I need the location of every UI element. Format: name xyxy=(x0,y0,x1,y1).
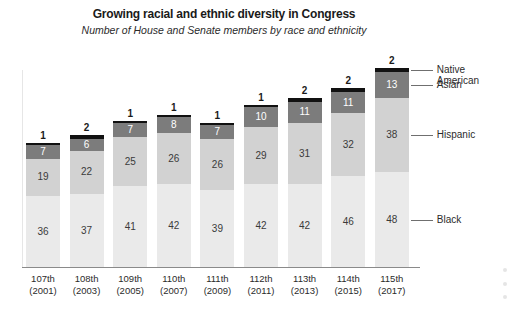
bar-segment-black[interactable]: 37 xyxy=(70,194,104,267)
segment-value: 38 xyxy=(386,130,397,140)
segment-value: 36 xyxy=(37,227,48,237)
x-axis-tick-112th: 112th(2011) xyxy=(238,273,284,297)
scan-artifact xyxy=(503,282,507,286)
x-tick-year: (2003) xyxy=(64,285,110,297)
bar-segment-asian[interactable]: 11 xyxy=(331,92,365,114)
bar-segment-hispanic[interactable]: 29 xyxy=(244,127,278,184)
bar-top-label: 1 xyxy=(26,130,60,141)
segment-value: 10 xyxy=(255,112,266,122)
bar-top-label: 2 xyxy=(288,85,322,96)
bar-segment-native-american[interactable] xyxy=(157,115,191,117)
x-axis-tick-113th: 113th(2013) xyxy=(282,273,328,297)
x-axis-tick-111th: 111th(2009) xyxy=(194,273,240,297)
leader-line-hispanic xyxy=(411,135,433,136)
bar-segment-native-american[interactable] xyxy=(288,98,322,102)
segment-value: 7 xyxy=(127,125,133,135)
segment-value: 46 xyxy=(343,217,354,227)
bar-segment-hispanic[interactable]: 38 xyxy=(375,98,409,173)
bar-113th[interactable]: 423111 xyxy=(288,98,322,267)
bar-top-label: 1 xyxy=(157,102,191,113)
bar-segment-asian[interactable]: 11 xyxy=(288,102,322,124)
bar-top-label: 1 xyxy=(113,108,147,119)
bar-segment-native-american[interactable] xyxy=(331,88,365,92)
bar-110th[interactable]: 42268 xyxy=(157,115,191,267)
x-tick-congress: 112th xyxy=(238,273,284,285)
x-tick-congress: 113th xyxy=(282,273,328,285)
bar-111th[interactable]: 39267 xyxy=(200,123,234,267)
bar-segment-native-american[interactable] xyxy=(113,121,147,123)
bar-top-label: 2 xyxy=(70,122,104,133)
segment-value: 39 xyxy=(212,224,223,234)
bar-segment-black[interactable]: 48 xyxy=(375,172,409,267)
bar-segment-hispanic[interactable]: 22 xyxy=(70,151,104,194)
category-label-native-american-line1: Native xyxy=(437,64,465,75)
bar-segment-native-american[interactable] xyxy=(200,123,234,125)
segment-value: 42 xyxy=(299,221,310,231)
bar-segment-black[interactable]: 39 xyxy=(200,190,234,267)
x-tick-year: (2007) xyxy=(151,285,197,297)
bar-segment-hispanic[interactable]: 25 xyxy=(113,137,147,186)
x-axis-tick-109th: 109th(2005) xyxy=(107,273,153,297)
bar-segment-asian[interactable]: 10 xyxy=(244,107,278,127)
segment-value: 26 xyxy=(212,160,223,170)
segment-value: 31 xyxy=(299,149,310,159)
x-axis-tick-107th: 107th(2001) xyxy=(20,273,66,297)
bar-108th[interactable]: 37226 xyxy=(70,135,104,267)
x-axis-tick-114th: 114th(2015) xyxy=(325,273,371,297)
segment-value: 37 xyxy=(81,226,92,236)
segment-value: 42 xyxy=(168,221,179,231)
bar-115th[interactable]: 483813 xyxy=(375,68,409,267)
x-tick-congress: 109th xyxy=(107,273,153,285)
bar-segment-black[interactable]: 41 xyxy=(113,186,147,267)
bar-segment-black[interactable]: 42 xyxy=(288,184,322,267)
x-tick-year: (2009) xyxy=(194,285,240,297)
bar-segment-hispanic[interactable]: 26 xyxy=(157,133,191,184)
bar-segment-black[interactable]: 42 xyxy=(244,184,278,267)
segment-value: 22 xyxy=(81,167,92,177)
bar-112th[interactable]: 422910 xyxy=(244,105,278,267)
bar-segment-hispanic[interactable]: 32 xyxy=(331,113,365,176)
bar-segment-asian[interactable]: 6 xyxy=(70,139,104,151)
x-tick-year: (2005) xyxy=(107,285,153,297)
plot-area: 361971107th(2001)372262108th(2003)412571… xyxy=(0,0,510,315)
segment-value: 11 xyxy=(299,107,309,117)
leader-line-black xyxy=(411,220,433,221)
bar-segment-hispanic[interactable]: 26 xyxy=(200,139,234,190)
bar-segment-black[interactable]: 46 xyxy=(331,176,365,267)
bar-segment-native-american[interactable] xyxy=(26,143,60,145)
bar-segment-asian[interactable]: 8 xyxy=(157,117,191,133)
bar-segment-native-american[interactable] xyxy=(244,105,278,107)
chart-figure: Growing racial and ethnic diversity in C… xyxy=(0,0,510,315)
bar-top-label: 1 xyxy=(244,92,278,103)
y-axis-line xyxy=(22,70,23,267)
x-tick-congress: 108th xyxy=(64,273,110,285)
segment-value: 7 xyxy=(40,147,46,157)
bar-segment-black[interactable]: 36 xyxy=(26,196,60,267)
bar-segment-asian[interactable]: 7 xyxy=(113,123,147,137)
bar-107th[interactable]: 36197 xyxy=(26,143,60,267)
x-tick-congress: 115th xyxy=(369,273,415,285)
x-tick-congress: 107th xyxy=(20,273,66,285)
bar-segment-asian[interactable]: 7 xyxy=(200,125,234,139)
bar-segment-asian[interactable]: 13 xyxy=(375,72,409,98)
bar-segment-asian[interactable]: 7 xyxy=(26,145,60,159)
bar-114th[interactable]: 463211 xyxy=(331,88,365,267)
scan-artifact xyxy=(503,295,507,299)
bar-segment-hispanic[interactable]: 31 xyxy=(288,123,322,184)
segment-value: 26 xyxy=(168,154,179,164)
bar-109th[interactable]: 41257 xyxy=(113,121,147,267)
segment-value: 8 xyxy=(171,120,177,130)
bar-segment-hispanic[interactable]: 19 xyxy=(26,159,60,196)
scan-artifact xyxy=(503,268,507,272)
segment-value: 41 xyxy=(125,222,136,232)
segment-value: 48 xyxy=(386,215,397,225)
bar-segment-native-american[interactable] xyxy=(70,135,104,139)
x-axis-tick-115th: 115th(2017) xyxy=(369,273,415,297)
segment-value: 11 xyxy=(343,98,353,108)
category-label-asian: Asian xyxy=(437,79,462,90)
bar-segment-black[interactable]: 42 xyxy=(157,184,191,267)
segment-value: 25 xyxy=(125,157,136,167)
bar-segment-native-american[interactable] xyxy=(375,68,409,72)
x-tick-year: (2013) xyxy=(282,285,328,297)
x-tick-year: (2001) xyxy=(20,285,66,297)
